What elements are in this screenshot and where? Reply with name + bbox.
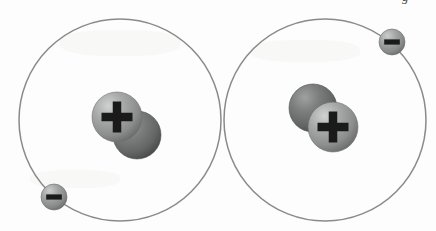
- electron: [41, 184, 67, 210]
- nucleus: [289, 84, 358, 152]
- electron: [379, 29, 405, 55]
- atom-left: [19, 19, 221, 221]
- minus-charge-icon: [46, 194, 62, 199]
- atom-diagram-canvas: [0, 0, 436, 231]
- atom-right: [224, 19, 426, 221]
- minus-charge-icon: [384, 39, 400, 44]
- plus-charge-icon: [113, 102, 122, 133]
- nucleus: [92, 92, 161, 159]
- plus-charge-icon: [329, 112, 338, 143]
- atom-diagram-figure: g: [0, 0, 436, 231]
- atoms-layer: [19, 19, 426, 221]
